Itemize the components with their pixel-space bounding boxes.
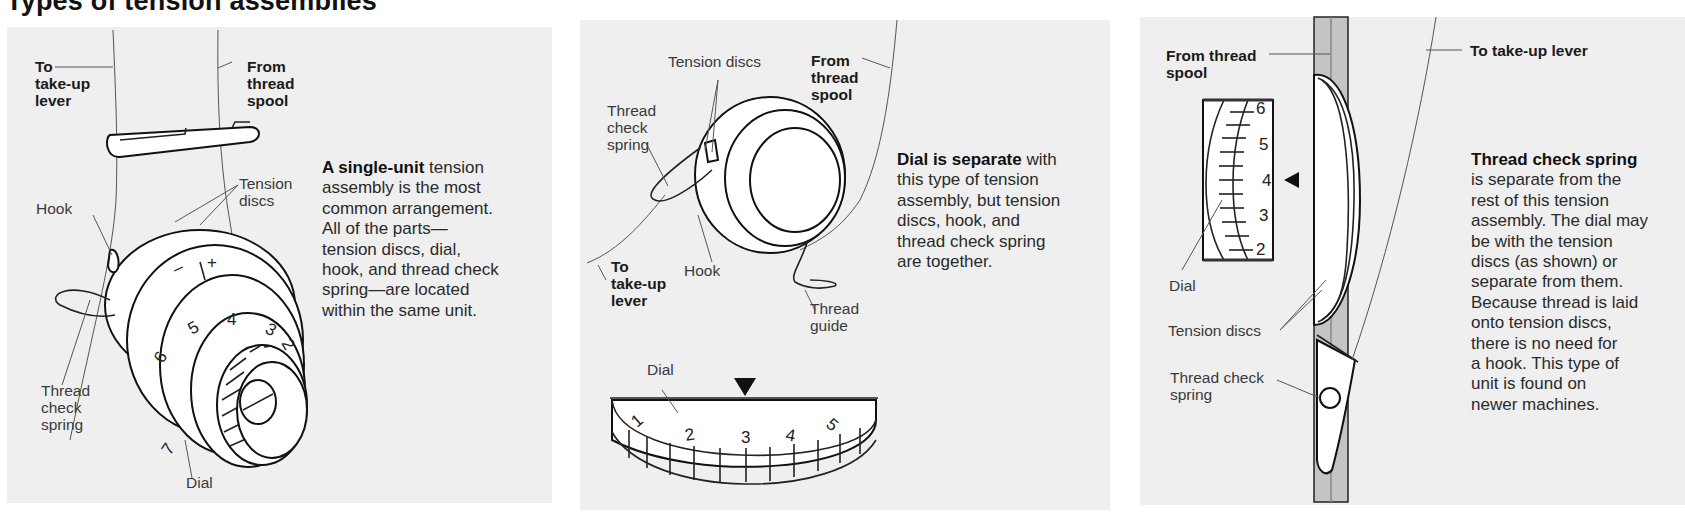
- svg-text:5: 5: [1259, 135, 1268, 154]
- svg-text:6: 6: [1256, 99, 1265, 118]
- label-dial: Dial: [1169, 277, 1196, 294]
- label-to-takeup-lever: To take-up lever: [1470, 42, 1588, 59]
- thread-check-spring-dial-numbers: 6 5 4 3 2: [0, 0, 1685, 524]
- svg-text:3: 3: [1259, 206, 1268, 225]
- svg-text:4: 4: [1262, 171, 1271, 190]
- label-tension-discs: Tension discs: [1168, 322, 1261, 339]
- label-from-thread-spool: From thread spool: [1166, 47, 1256, 81]
- description-thread-check-spring: Thread check spring is separate from the…: [1471, 150, 1648, 415]
- label-thread-check-spring: Thread check spring: [1170, 369, 1264, 403]
- svg-text:2: 2: [1256, 240, 1265, 259]
